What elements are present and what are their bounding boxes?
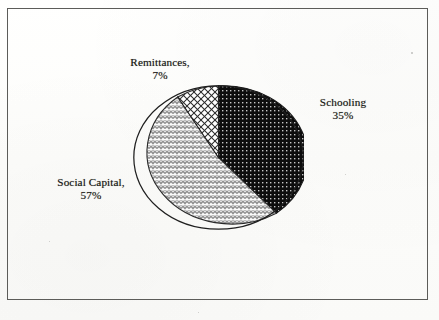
pie-label-remittances-percent: 7%	[101, 69, 219, 82]
pie-chart	[133, 85, 304, 230]
pie-label-social-capital-percent: 57%	[25, 189, 157, 202]
pie-label-remittances: Remittances, 7%	[101, 56, 219, 83]
pie-label-remittances-name: Remittances,	[130, 56, 189, 68]
pie-chart-figure-screenshot: Remittances, 7% Schooling 35% Social Cap…	[0, 0, 439, 320]
pie-label-schooling-percent: 35%	[284, 109, 402, 122]
scan-speck	[198, 312, 199, 313]
pie-label-schooling-name: Schooling	[320, 96, 366, 108]
pie-label-social-capital-name: Social Capital,	[57, 176, 124, 188]
pie-label-schooling: Schooling 35%	[284, 96, 402, 123]
pie-chart-svg	[133, 85, 304, 230]
pie-label-social-capital: Social Capital, 57%	[25, 176, 157, 203]
